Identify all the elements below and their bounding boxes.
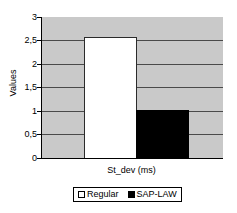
legend-swatch-icon: [128, 191, 135, 198]
chart-legend: Regular SAP-LAW: [73, 187, 182, 202]
y-tick-label: 2,5: [16, 36, 37, 45]
x-axis-title: St_dev (ms): [41, 165, 222, 176]
legend-label: Regular: [87, 190, 119, 199]
y-tick-label: 1: [16, 107, 37, 116]
legend-entry-regular[interactable]: Regular: [78, 190, 119, 199]
y-tick-label: 2: [16, 60, 37, 69]
y-tick-label: 3: [16, 13, 37, 22]
legend-entry-sap-law[interactable]: SAP-LAW: [128, 190, 177, 199]
legend-swatch-icon: [78, 191, 85, 198]
bar-regular[interactable]: [84, 37, 137, 158]
legend-label: SAP-LAW: [137, 190, 177, 199]
bar-chart: Values 3 2,5 2 1,5 1 0,5 0 St_dev (ms) R…: [0, 0, 237, 213]
y-axis-tick-labels: 3 2,5 2 1,5 1 0,5 0: [16, 0, 37, 213]
y-tick-label: 0,5: [16, 130, 37, 139]
plot-area: [41, 17, 223, 159]
bar-sap-law[interactable]: [136, 110, 189, 158]
y-tick-label: 0: [16, 154, 37, 163]
y-tick-label: 1,5: [16, 83, 37, 92]
